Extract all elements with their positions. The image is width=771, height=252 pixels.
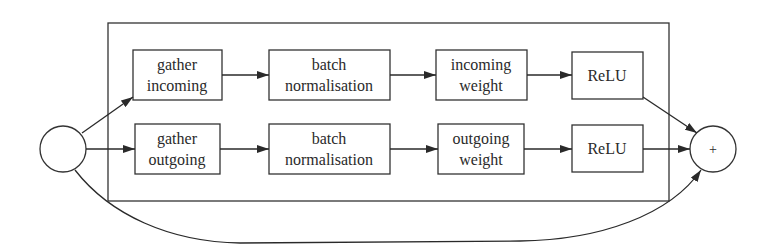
- svg-text:ReLU: ReLU: [587, 67, 627, 84]
- residual-block-diagram: + gather incoming batch normalisation in…: [0, 0, 771, 252]
- gather-incoming-node: gather incoming: [133, 50, 222, 100]
- edge-relu-top-to-sum: [643, 97, 697, 133]
- batch-norm-top-node: batch normalisation: [269, 50, 390, 100]
- svg-text:batch: batch: [312, 56, 347, 73]
- svg-text:batch: batch: [312, 130, 347, 147]
- edge-skip-connection: [75, 170, 701, 243]
- svg-text:weight: weight: [459, 77, 503, 95]
- outgoing-weight-node: outgoing weight: [438, 124, 524, 174]
- svg-text:gather: gather: [157, 130, 198, 148]
- incoming-weight-node: incoming weight: [436, 50, 527, 100]
- svg-text:weight: weight: [459, 151, 503, 169]
- svg-text:normalisation: normalisation: [285, 151, 373, 168]
- svg-text:outgoing: outgoing: [149, 151, 206, 169]
- svg-text:incoming: incoming: [147, 77, 207, 95]
- batch-norm-bottom-node: batch normalisation: [269, 124, 390, 174]
- relu-bottom-node: ReLU: [572, 125, 643, 172]
- relu-top-node: ReLU: [572, 52, 643, 99]
- input-node: [40, 126, 86, 172]
- gather-outgoing-node: gather outgoing: [135, 124, 220, 174]
- svg-text:gather: gather: [157, 56, 198, 74]
- svg-text:ReLU: ReLU: [587, 140, 627, 157]
- sum-node-label: +: [709, 142, 717, 157]
- svg-text:incoming: incoming: [451, 56, 511, 74]
- svg-text:outgoing: outgoing: [453, 130, 510, 148]
- svg-text:normalisation: normalisation: [285, 77, 373, 94]
